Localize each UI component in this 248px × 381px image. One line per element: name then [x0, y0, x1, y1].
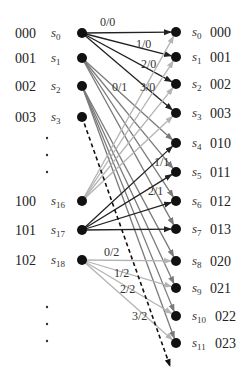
ellipsis-dot [46, 306, 48, 308]
state-code-label: 000 [15, 26, 36, 41]
state-node [77, 53, 87, 63]
transition-edge [82, 260, 171, 261]
edge-label: 0/2 [104, 245, 119, 259]
state-node [171, 283, 181, 293]
transition-edge [82, 32, 171, 33]
edge-label: 1/0 [136, 37, 151, 51]
state-node [77, 196, 87, 206]
state-code-label: 003 [15, 110, 36, 125]
state-name-label: s1 [51, 50, 61, 67]
state-name-label: s18 [51, 252, 66, 269]
state-code-label: 013 [210, 222, 231, 237]
state-name-label: s6 [192, 193, 202, 210]
state-node [77, 112, 87, 122]
state-node [171, 338, 181, 348]
state-name-label: s3 [51, 109, 61, 126]
state-node [77, 225, 87, 235]
state-code-label: 003 [210, 106, 231, 121]
edge-label: 1/2 [114, 266, 129, 280]
edge-label: 0/1 [112, 80, 127, 94]
state-name-label: s1 [192, 49, 202, 66]
state-name-label: s10 [192, 308, 207, 325]
ellipsis-dot [46, 171, 48, 173]
state-code-label: 002 [210, 77, 231, 92]
state-name-label: s4 [192, 135, 202, 152]
state-name-label: s11 [192, 335, 206, 352]
state-code-label: 010 [210, 136, 231, 151]
state-name-label: s0 [51, 25, 61, 42]
state-name-label: s17 [51, 222, 66, 239]
ellipsis-dot [46, 137, 48, 139]
state-code-label: 001 [15, 51, 36, 66]
state-name-label: s2 [51, 78, 61, 95]
state-code-label: 021 [210, 281, 231, 296]
state-node [171, 256, 181, 266]
edge-label: 2/2 [120, 282, 135, 296]
state-code-label: 101 [15, 223, 36, 238]
state-node [171, 311, 181, 321]
ellipsis-dot [46, 340, 48, 342]
state-code-label: 002 [15, 79, 36, 94]
transition-edge [82, 229, 171, 230]
state-node [77, 255, 87, 265]
edge-label: 2/1 [148, 184, 163, 198]
state-code-label: 012 [210, 194, 231, 209]
state-code-label: 100 [15, 194, 36, 209]
state-node [171, 167, 181, 177]
state-name-label: s9 [192, 280, 202, 297]
state-code-label: 023 [215, 336, 236, 351]
state-node [171, 196, 181, 206]
edge-label: 0/0 [100, 15, 115, 29]
state-node [171, 224, 181, 234]
state-code-label: 020 [210, 254, 231, 269]
state-node [77, 81, 87, 91]
edge-label: 2/0 [141, 57, 156, 71]
state-code-label: 102 [15, 253, 36, 268]
state-name-label: s3 [192, 105, 202, 122]
labels-layer: 000s0001s1002s2003s3100s16101s17102s18s0… [15, 15, 236, 352]
state-name-label: s5 [192, 164, 202, 181]
state-name-label: s7 [192, 221, 202, 238]
state-code-label: 011 [210, 165, 230, 180]
transition-edge [82, 86, 174, 257]
state-node [77, 28, 87, 38]
state-node [171, 79, 181, 89]
trellis-diagram: 000s0001s1002s2003s3100s16101s17102s18s0… [0, 0, 248, 381]
state-node [171, 138, 181, 148]
edge-label: 3/2 [132, 309, 147, 323]
state-name-label: s16 [51, 193, 66, 210]
state-code-label: 022 [215, 309, 236, 324]
state-node [171, 52, 181, 62]
state-code-label: 001 [210, 50, 231, 65]
state-code-label: 000 [210, 25, 231, 40]
state-name-label: s0 [192, 24, 202, 41]
state-name-label: s2 [192, 76, 202, 93]
ellipsis-dot [46, 154, 48, 156]
state-name-label: s8 [192, 253, 202, 270]
state-node [171, 27, 181, 37]
state-node [171, 108, 181, 118]
edge-label: 1/1 [154, 155, 169, 169]
edge-label: 3/0 [140, 80, 155, 94]
ellipsis-dot [46, 323, 48, 325]
